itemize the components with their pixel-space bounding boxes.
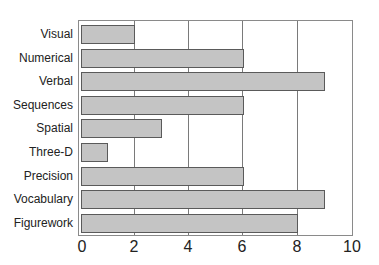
bar-numerical xyxy=(81,49,244,68)
y-label-vocabulary: Vocabulary xyxy=(14,192,73,206)
bar-three-d xyxy=(81,143,108,162)
bar-sequences xyxy=(81,96,244,115)
x-tick-2: 2 xyxy=(130,238,139,256)
y-label-numerical: Numerical xyxy=(19,51,73,65)
y-label-spatial: Spatial xyxy=(36,121,73,135)
y-label-visual: Visual xyxy=(41,27,73,41)
y-label-precision: Precision xyxy=(24,169,73,183)
x-tick-4: 4 xyxy=(184,238,193,256)
y-label-figurework: Figurework xyxy=(14,216,73,230)
y-label-three-d: Three-D xyxy=(29,145,73,159)
x-tick-10: 10 xyxy=(343,238,361,256)
bar-precision xyxy=(81,167,244,186)
bar-spatial xyxy=(81,119,162,138)
x-tick-6: 6 xyxy=(238,238,247,256)
bar-verbal xyxy=(81,72,325,91)
bar-visual xyxy=(81,25,135,44)
y-label-verbal: Verbal xyxy=(39,74,73,88)
y-label-sequences: Sequences xyxy=(13,98,73,112)
x-tick-0: 0 xyxy=(78,238,87,256)
bar-figurework xyxy=(81,214,298,233)
plot-area xyxy=(78,20,353,236)
x-tick-8: 8 xyxy=(293,238,302,256)
bar-vocabulary xyxy=(81,190,325,209)
